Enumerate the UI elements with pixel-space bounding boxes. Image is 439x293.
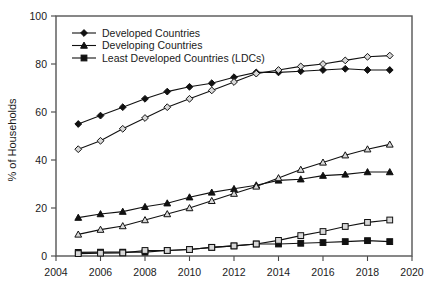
data-point-marker: [186, 95, 193, 102]
data-point-marker: [365, 220, 371, 226]
data-point-marker: [120, 250, 126, 256]
legend-item: Least Developed Countries (LDCs): [72, 52, 265, 64]
data-point-marker: [364, 53, 371, 60]
data-point-marker: [342, 57, 349, 64]
data-point-marker: [342, 239, 348, 245]
data-point-marker: [142, 115, 149, 122]
data-point-marker: [142, 248, 148, 254]
x-tick-label: 2004: [44, 266, 68, 278]
series-layer: [75, 52, 393, 256]
data-point-marker: [298, 240, 304, 246]
data-point-marker: [164, 104, 171, 111]
data-point-marker: [298, 233, 304, 239]
data-point-marker: [364, 67, 371, 74]
data-point-marker: [387, 217, 393, 223]
data-point-marker: [119, 125, 126, 132]
y-tick-label: 40: [35, 154, 47, 166]
data-point-marker: [186, 83, 193, 90]
data-point-marker: [276, 238, 282, 244]
y-tick-label: 20: [35, 202, 47, 214]
data-point-marker: [342, 65, 349, 72]
data-point-marker: [75, 121, 82, 128]
x-tick-label: 2012: [222, 266, 246, 278]
data-point-marker: [164, 88, 171, 95]
x-tick-label: 2014: [267, 266, 291, 278]
data-point-marker: [97, 137, 104, 144]
legend-item: Developing Countries: [72, 39, 202, 51]
data-point-marker: [81, 30, 88, 37]
legend-label: Developed Countries: [102, 27, 200, 39]
data-point-marker: [164, 248, 170, 254]
chart-container: 020406080100 200420062008201020122014201…: [0, 0, 439, 293]
x-tick-label: 2010: [178, 266, 202, 278]
y-tick-label: 0: [41, 250, 47, 262]
data-point-marker: [231, 79, 238, 86]
legend-item: Developed Countries: [72, 27, 200, 39]
line-chart: 020406080100 200420062008201020122014201…: [0, 0, 439, 293]
legend-label: Developing Countries: [102, 39, 202, 51]
y-tick-label: 60: [35, 106, 47, 118]
data-point-marker: [342, 224, 348, 230]
data-point-marker: [119, 104, 126, 111]
x-tick-label: 2008: [133, 266, 157, 278]
series-0: [75, 65, 393, 127]
data-point-marker: [98, 250, 104, 256]
data-point-marker: [297, 63, 304, 70]
data-point-marker: [208, 80, 215, 87]
y-tick-label: 80: [35, 58, 47, 70]
data-point-marker: [386, 141, 393, 147]
data-point-marker: [209, 244, 215, 250]
data-point-marker: [208, 87, 215, 94]
x-tick-label: 2020: [400, 266, 424, 278]
data-point-marker: [253, 241, 259, 247]
data-point-marker: [75, 146, 82, 153]
data-point-marker: [365, 238, 371, 244]
legend-label: Least Developed Countries (LDCs): [102, 52, 265, 64]
chart-legend: Developed CountriesDeveloping CountriesL…: [72, 27, 265, 64]
data-point-marker: [187, 247, 193, 253]
data-point-marker: [320, 240, 326, 246]
x-tick-label: 2016: [311, 266, 335, 278]
data-point-marker: [386, 52, 393, 59]
y-axis-title: % of Households: [6, 98, 18, 182]
data-point-marker: [75, 251, 81, 257]
data-point-marker: [387, 239, 393, 245]
y-axis-ticks: 020406080100: [29, 10, 56, 262]
data-point-marker: [97, 112, 104, 119]
x-tick-label: 2018: [356, 266, 380, 278]
data-point-marker: [231, 243, 237, 249]
y-tick-label: 100: [29, 10, 47, 22]
data-point-marker: [81, 55, 87, 61]
x-tick-label: 2006: [89, 266, 113, 278]
data-point-marker: [320, 229, 326, 235]
data-point-marker: [142, 95, 149, 102]
data-point-marker: [320, 61, 327, 68]
data-point-marker: [386, 67, 393, 74]
x-axis-ticks: 200420062008201020122014201620182020: [44, 256, 424, 278]
